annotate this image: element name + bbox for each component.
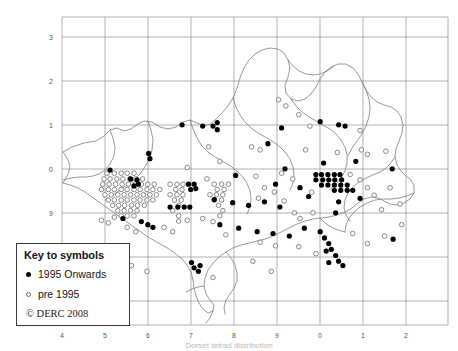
record-point-historic [258,148,263,153]
record-point-historic [106,198,111,203]
record-point-recent [345,182,350,187]
record-point-recent [179,122,184,127]
record-point-recent [134,177,139,182]
record-point-historic [145,182,150,187]
record-point-recent [342,124,347,129]
record-point-historic [135,192,140,197]
record-point-recent [321,160,326,165]
svg-text:3: 3 [49,34,53,41]
record-point-recent [145,222,150,227]
record-point-recent [246,203,251,208]
record-point-historic [168,192,173,197]
record-point-historic [138,198,143,203]
record-point-recent [200,124,205,129]
record-point-historic [372,193,377,198]
record-point-historic [110,203,115,208]
record-point-historic [254,174,259,179]
record-point-historic [214,192,219,197]
record-point-recent [318,229,323,234]
record-point-historic [258,240,263,245]
record-point-recent [306,194,311,199]
record-point-historic [138,187,143,192]
record-point-historic [103,192,108,197]
svg-text:1: 1 [49,122,53,129]
record-point-recent [390,166,395,171]
record-point-historic [365,152,370,157]
record-point-historic [109,192,114,197]
record-point-historic [350,231,355,236]
record-point-recent [230,200,235,205]
record-point-recent [188,187,193,192]
record-point-historic [359,148,364,153]
record-point-historic [135,203,140,208]
record-point-historic [365,241,370,246]
record-point-historic [119,171,124,176]
record-point-recent [236,226,241,231]
record-point-historic [222,187,227,192]
record-point-historic [107,182,112,187]
record-point-historic [348,172,353,177]
record-point-recent [150,225,155,230]
record-point-historic [128,208,133,213]
record-point-historic [219,198,224,203]
record-point-historic [382,234,387,239]
record-point-historic [125,187,130,192]
record-point-historic [226,182,231,187]
record-point-recent [318,119,323,124]
record-point-historic [218,214,223,219]
record-point-historic [249,145,254,150]
record-point-historic [211,219,216,224]
record-point-historic [115,192,120,197]
record-point-historic [221,192,226,197]
record-point-historic [106,187,111,192]
record-point-historic [120,182,125,187]
record-point-historic [126,182,131,187]
record-point-historic [108,177,113,182]
svg-text:5: 5 [103,332,107,339]
record-point-historic [176,219,181,224]
legend-entry-historic-label: pre 1995 [38,288,79,300]
record-point-recent [313,172,318,177]
copyright-notice: © DERC 2008 [26,308,129,319]
record-point-historic [256,196,261,201]
record-point-recent [325,182,330,187]
record-point-historic [151,198,156,203]
record-point-historic [125,198,130,203]
record-point-historic [212,182,217,187]
record-point-historic [216,203,221,208]
record-point-recent [182,204,187,209]
record-point-historic [181,192,186,197]
record-point-historic [116,203,121,208]
record-point-recent [196,269,201,274]
record-point-recent [120,216,125,221]
record-point-historic [132,214,137,219]
record-point-historic [384,149,389,154]
record-point-historic [99,187,104,192]
record-point-historic [170,229,175,234]
record-point-historic [279,171,284,176]
record-point-recent [338,182,343,187]
record-point-historic [365,185,370,190]
open-circle-icon [26,292,38,297]
record-point-historic [125,171,130,176]
record-point-recent [193,186,198,191]
svg-text:8: 8 [232,332,236,339]
record-point-historic [221,208,226,213]
record-point-historic [208,192,213,197]
x-axis-tick-labels: 4 5 6 7 8 9 0 1 2 [60,332,408,339]
record-point-recent [391,237,396,242]
record-point-historic [176,214,181,219]
record-point-historic [157,187,162,192]
record-point-historic [309,190,314,195]
record-point-historic [145,187,150,192]
record-point-recent [332,172,337,177]
record-point-recent [139,219,144,224]
record-point-historic [335,150,340,155]
record-point-historic [179,198,184,203]
record-point-recent [357,196,362,201]
legend-entry-recent: 1995 Onwards [26,267,129,281]
record-point-historic [388,185,393,190]
svg-text:6: 6 [146,332,150,339]
record-point-recent [297,185,302,190]
record-point-historic [141,192,146,197]
